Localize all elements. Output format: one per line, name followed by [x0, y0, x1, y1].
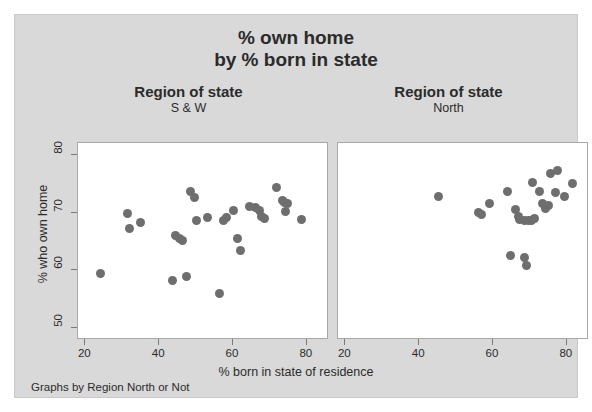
x-tick-label: 40: [143, 347, 173, 359]
x-tick-label: 40: [403, 347, 433, 359]
x-tick-mark: [418, 339, 419, 345]
data-point: [551, 188, 560, 197]
x-tick-label: 60: [477, 347, 507, 359]
data-point: [297, 215, 306, 224]
data-point: [528, 178, 537, 187]
data-point: [236, 246, 245, 255]
data-point: [535, 187, 544, 196]
panel-header-left-title: Region of state: [63, 83, 314, 101]
scatter-panel-north: [337, 142, 588, 339]
x-tick-label: 80: [291, 347, 321, 359]
x-tick-label: 60: [217, 347, 247, 359]
x-tick-mark: [84, 339, 85, 345]
data-point: [260, 214, 269, 223]
data-point: [136, 218, 145, 227]
data-point: [192, 216, 201, 225]
x-tick-mark: [492, 339, 493, 345]
data-point: [503, 187, 512, 196]
data-point: [485, 199, 494, 208]
scatter-panel-s-and-w: [77, 142, 328, 339]
data-point: [229, 206, 238, 215]
data-point: [506, 251, 515, 260]
data-point: [544, 201, 553, 210]
chart-title: % own home by % born in state: [15, 27, 577, 71]
figure-canvas: % own home by % born in state Region of …: [14, 14, 578, 398]
data-point: [178, 236, 187, 245]
data-point: [530, 214, 539, 223]
y-tick-label: 70: [52, 199, 64, 225]
chart-footnote: Graphs by Region North or Not: [31, 381, 190, 393]
data-point: [477, 210, 486, 219]
x-tick-mark: [566, 339, 567, 345]
y-axis-label: % who own home: [36, 154, 50, 314]
data-point: [215, 289, 224, 298]
data-point: [553, 166, 562, 175]
x-tick-label: 80: [551, 347, 581, 359]
x-tick-label: 20: [329, 347, 359, 359]
x-axis-label: % born in state of residence: [15, 365, 577, 379]
data-point: [272, 183, 281, 192]
x-tick-mark: [306, 339, 307, 345]
panel-header-right: Region of state North: [323, 83, 574, 116]
x-tick-mark: [344, 339, 345, 345]
y-tick-label: 50: [52, 314, 64, 340]
data-point: [125, 224, 134, 233]
data-point: [281, 207, 290, 216]
data-point: [434, 192, 443, 201]
data-point: [222, 213, 231, 222]
x-tick-label: 20: [69, 347, 99, 359]
panel-header-right-subtitle: North: [323, 101, 574, 116]
data-point: [522, 261, 531, 270]
chart-title-line-2: by % born in state: [15, 49, 577, 71]
data-point: [168, 276, 177, 285]
data-point: [568, 179, 577, 188]
chart-title-line-1: % own home: [15, 27, 577, 49]
panel-header-left: Region of state S & W: [63, 83, 314, 116]
data-point: [182, 272, 191, 281]
x-tick-mark: [158, 339, 159, 345]
data-point: [190, 193, 199, 202]
y-tick-label: 60: [52, 256, 64, 282]
data-point: [96, 269, 105, 278]
data-point: [123, 209, 132, 218]
x-tick-mark: [232, 339, 233, 345]
data-point: [233, 234, 242, 243]
data-point: [560, 192, 569, 201]
data-point: [203, 213, 212, 222]
y-tick-label: 80: [52, 141, 64, 167]
panel-header-right-title: Region of state: [323, 83, 574, 101]
panel-header-left-subtitle: S & W: [63, 101, 314, 116]
